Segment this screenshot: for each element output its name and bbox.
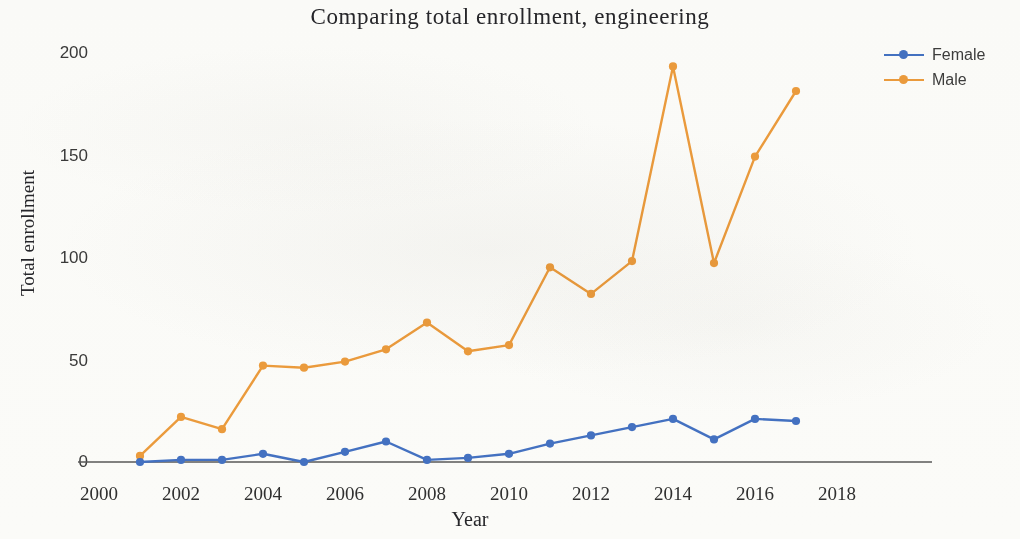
data-point-marker[interactable] [300, 458, 308, 466]
legend-item-male[interactable]: Male [884, 67, 1018, 92]
data-point-marker[interactable] [423, 319, 431, 327]
data-point-marker[interactable] [751, 415, 759, 423]
data-point-marker[interactable] [710, 259, 718, 267]
data-point-marker[interactable] [628, 423, 636, 431]
chart-legend: Female Male [884, 42, 1018, 92]
data-point-marker[interactable] [464, 347, 472, 355]
data-point-marker[interactable] [382, 437, 390, 445]
plot-area [0, 0, 1020, 539]
data-point-marker[interactable] [792, 417, 800, 425]
series-female [136, 415, 800, 466]
data-point-marker[interactable] [546, 263, 554, 271]
legend-label: Female [924, 46, 985, 64]
data-point-marker[interactable] [710, 435, 718, 443]
data-point-marker[interactable] [136, 458, 144, 466]
legend-line-marker-icon [884, 73, 924, 87]
data-point-marker[interactable] [177, 413, 185, 421]
data-point-marker[interactable] [751, 153, 759, 161]
data-point-marker[interactable] [382, 345, 390, 353]
series-male [136, 62, 800, 460]
data-point-marker[interactable] [669, 415, 677, 423]
data-point-marker[interactable] [505, 450, 513, 458]
series-line [140, 66, 796, 456]
data-point-marker[interactable] [546, 440, 554, 448]
data-point-marker[interactable] [218, 425, 226, 433]
chart-figure: Comparing total enrollment, engineering … [0, 0, 1020, 539]
data-point-marker[interactable] [259, 450, 267, 458]
data-point-marker[interactable] [505, 341, 513, 349]
legend-label: Male [924, 71, 967, 89]
data-point-marker[interactable] [464, 454, 472, 462]
data-point-marker[interactable] [628, 257, 636, 265]
data-point-marker[interactable] [423, 456, 431, 464]
legend-item-female[interactable]: Female [884, 42, 1018, 67]
data-point-marker[interactable] [792, 87, 800, 95]
data-point-marker[interactable] [341, 358, 349, 366]
data-point-marker[interactable] [177, 456, 185, 464]
data-point-marker[interactable] [587, 431, 595, 439]
data-point-marker[interactable] [259, 362, 267, 370]
legend-line-marker-icon [884, 48, 924, 62]
data-point-marker[interactable] [669, 62, 677, 70]
data-point-marker[interactable] [218, 456, 226, 464]
data-point-marker[interactable] [341, 448, 349, 456]
data-point-marker[interactable] [300, 364, 308, 372]
data-point-marker[interactable] [587, 290, 595, 298]
